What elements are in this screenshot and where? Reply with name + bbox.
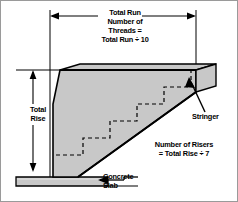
concrete-slab-line-2: Slab: [103, 181, 149, 190]
stair-diagram-canvas: Total Run Number of Threads = Total Run …: [0, 0, 238, 202]
total-run-line-1: Total Run: [71, 8, 180, 17]
number-of-risers-label-block: Number of Risers = Total Rise ÷ 7: [140, 140, 228, 158]
total-rise-label-block: Total Rise: [20, 105, 57, 123]
concrete-slab: [16, 177, 108, 186]
concrete-slab-label-block: Concrete Slab: [103, 172, 149, 190]
risers-line-2: = Total Rise ÷ 7: [140, 149, 228, 158]
total-run-line-4: Total Run ÷ 10: [71, 35, 180, 44]
stringer-body: [53, 70, 196, 177]
total-run-line-2: Number of: [71, 17, 180, 26]
concrete-slab-line-1: Concrete: [103, 172, 149, 181]
total-run-label-block: Total Run Number of Threads = Total Run …: [71, 8, 180, 44]
total-run-line-3: Threads =: [71, 26, 180, 35]
total-rise-line-2: Rise: [20, 114, 57, 123]
stringer-label: Stringer: [192, 112, 219, 121]
total-rise-line-1: Total: [20, 105, 57, 114]
risers-line-1: Number of Risers: [140, 140, 228, 149]
